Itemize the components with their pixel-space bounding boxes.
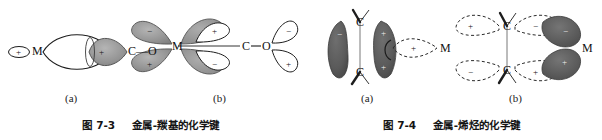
figure-7-4-artwork: C C M − + + + C C M + − − + − + xyxy=(301,0,602,92)
fig74a-atom-c-bottom: C xyxy=(356,66,364,78)
figure-7-4-caption: 图 7-4 金属-烯烃的化学键 xyxy=(301,117,602,132)
fig73b-sign-oxygen-upper: − xyxy=(286,27,291,36)
fig73a-group xyxy=(9,35,128,70)
figure-7-4-caption-title: 金属-烯烃的化学键 xyxy=(433,119,520,131)
fig74b-group xyxy=(456,13,581,83)
fig74b-sign-lower-right: + xyxy=(533,68,538,77)
fig73b-sign-lower-left: + xyxy=(147,60,152,69)
fig73b-sign-oxygen-lower: + xyxy=(286,60,291,69)
fig73-sublabel-b: (b) xyxy=(213,92,226,104)
fig74a-sign-metal-dashed: + xyxy=(411,44,416,53)
fig74a-sign-left-lobe: − xyxy=(337,30,342,39)
fig73b-sign-upper-right: + xyxy=(212,27,217,36)
fig74b-lower-left-dashed-lobe xyxy=(456,61,499,81)
fig73a-sign-carbon-plus: + xyxy=(99,48,104,57)
fig73a-atom-m: M xyxy=(32,45,43,57)
fig74-sublabel-b: (b) xyxy=(509,92,522,104)
figure-7-4-svg xyxy=(301,0,602,92)
fig74b-atom-c-top: C xyxy=(503,20,511,32)
figure-7-3-caption-number: 7-3 xyxy=(96,119,115,131)
figure-7-4-caption-number: 7-4 xyxy=(397,119,416,131)
fig74b-sign-metal-upper: − xyxy=(563,27,568,36)
fig73b-oxygen-upper-right-lobe xyxy=(272,21,298,43)
fig74b-atom-c-bottom: C xyxy=(503,64,511,76)
fig73b-oxygen-lower-right-lobe xyxy=(272,50,298,72)
fig74a-atom-c-top: C xyxy=(356,16,364,28)
fig73b-sign-lower-right: − xyxy=(212,60,217,69)
fig74b-sign-lower-left: − xyxy=(468,68,473,77)
fig74a-atom-m: M xyxy=(440,42,451,54)
fig73b-atom-o: O xyxy=(262,40,271,52)
fig74b-sign-upper-left: + xyxy=(468,22,473,31)
fig74a-sign-right-lobe-top: + xyxy=(381,29,386,38)
figure-7-3-caption-title: 金属-羰基的化学键 xyxy=(132,119,219,131)
fig74-sublabel-a: (a) xyxy=(361,92,373,104)
figure-7-3-caption-prefix: 图 xyxy=(82,119,92,131)
fig73b-atom-c: C xyxy=(242,40,250,52)
fig74a-group xyxy=(328,10,437,84)
figure-7-3: M C—O + + M C O − + + − − + (a) (b) 图 7-… xyxy=(0,0,301,140)
fig73-sublabel-a: (a) xyxy=(65,92,77,104)
figure-7-3-caption: 图 7-3 金属-羰基的化学键 xyxy=(0,117,301,132)
figure-sheet: M C—O + + M C O − + + − − + (a) (b) 图 7-… xyxy=(0,0,602,140)
fig73b-sign-upper-left: − xyxy=(147,27,152,36)
fig74b-atom-m: M xyxy=(582,42,593,54)
fig73a-sign-metal-plus: + xyxy=(16,48,21,57)
fig74b-upper-left-dashed-lobe xyxy=(456,15,499,35)
figure-7-4: C C M − + + + C C M + − − + − + (a) (b) … xyxy=(301,0,602,140)
figure-7-4-caption-prefix: 图 xyxy=(383,119,393,131)
fig74b-sign-metal-lower: + xyxy=(562,58,567,67)
fig74a-sign-right-lobe-bottom: + xyxy=(381,63,386,72)
fig74b-sign-upper-right: − xyxy=(533,22,538,31)
figure-7-3-artwork: M C—O + + M C O − + + − − + xyxy=(0,0,301,92)
fig73b-atom-m: M xyxy=(172,40,183,52)
fig74b-metal-upper-lobe xyxy=(542,16,581,47)
fig73a-atom-co: C—O xyxy=(128,45,157,57)
